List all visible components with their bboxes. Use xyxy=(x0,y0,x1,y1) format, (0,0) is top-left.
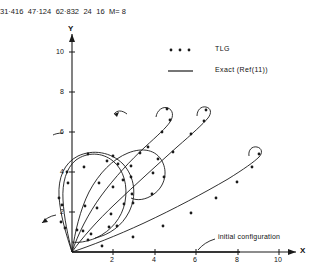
legend-marks xyxy=(168,49,193,71)
legend-label-tlg: TLG xyxy=(215,45,230,52)
y-tick-4: 4 xyxy=(60,168,64,175)
y-axis-label: Y xyxy=(68,24,73,33)
legend-dot-1 xyxy=(170,49,173,52)
y-tick-2: 2 xyxy=(60,208,64,215)
x-tick-10: 10 xyxy=(274,256,282,263)
curve-exact-16 xyxy=(72,107,210,252)
y-tick-10: 10 xyxy=(56,48,64,55)
x-tick-6: 6 xyxy=(193,256,197,263)
legend-dot-2 xyxy=(179,49,182,52)
y-axis-arrow xyxy=(69,34,75,42)
legend-dot-3 xyxy=(188,49,191,52)
y-tick-8: 8 xyxy=(60,88,64,95)
x-axis-arrow xyxy=(288,249,296,255)
initial-configuration-label: initial configuration xyxy=(218,233,280,240)
legend-label-exact: Exact (Ref(11)) xyxy=(215,66,268,73)
x-tick-2: 2 xyxy=(110,256,114,263)
curve-group xyxy=(59,107,262,252)
figure-canvas: Y X 2 4 6 8 10 2 4 6 8 10 31·416 47·124 … xyxy=(0,0,318,278)
x-tick-8: 8 xyxy=(235,256,239,263)
leader-initial-config xyxy=(198,239,215,250)
y-tick-6: 6 xyxy=(60,128,64,135)
x-axis-label: X xyxy=(300,246,305,255)
x-tick-4: 4 xyxy=(152,256,156,263)
